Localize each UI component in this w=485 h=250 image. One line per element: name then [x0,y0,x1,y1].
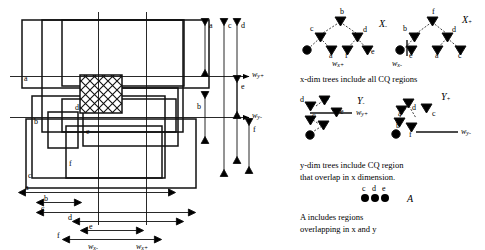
axis-label-wx-minus: wx- [88,243,98,250]
axis-label-wy-plus: wy+ [252,71,264,79]
axis-label-wy-minus: wy- [252,112,262,120]
tree-y-plus [392,99,458,138]
node-label-y-minus-e: e [340,108,344,116]
node-label-x-minus-b: b [340,8,344,16]
node-label-y-plus-b: b [396,122,400,130]
node-label-y-minus-d: d [300,96,304,104]
node-label-x-minus-e: e [371,48,375,56]
node-label-x-minus-d: d [363,26,367,34]
hinterval-label-a: a [25,184,29,192]
node-label-x-plus-c: c [458,52,462,60]
result-label-e: e [382,185,386,193]
vinterval-label-a: a [209,22,213,30]
hinterval-label-f: f [57,232,60,240]
node-label-y-minus-c: c [312,112,316,120]
query-region-cq [80,75,122,113]
tree-x-plus [396,17,466,56]
node-label-x-minus-f: f [345,52,348,60]
region-label-c: c [28,172,32,180]
tree-x-minus [303,17,373,55]
region-label-b: b [34,118,38,126]
tree-axis-x-minus: wx+ [332,60,344,68]
hinterval-label-c: c [41,205,45,213]
node-label-y-plus-f: f [409,131,412,139]
node-label-x-plus-d: d [452,26,456,34]
hinterval-label-b: b [44,195,48,203]
node-label-y-plus-d: d [412,104,416,112]
region-label-a: a [24,75,28,83]
caption-result-line1: A includes regions [300,212,363,223]
vinterval-label-c: c [228,22,232,30]
tree-title-x-plus: X+ [462,15,472,25]
node-label-y-plus-c: c [432,110,436,118]
result-set-dots [361,194,389,202]
node-label-x-plus-f: f [432,8,435,16]
tree-axis-x-plus: wx- [392,60,402,68]
hinterval-label-d: d [68,214,72,222]
node-label-y-minus-a: a [325,94,329,102]
node-label-x-minus-c: c [310,25,314,33]
node-label-x-plus-e: e [409,52,413,60]
vinterval-label-e: e [241,83,245,91]
vinterval-label-f: f [253,126,256,134]
axis-label-wx-plus: wx+ [136,243,148,250]
diagram-canvas [0,0,485,250]
region-rect-f [66,126,162,178]
tree-axis-y-minus: wy+ [356,109,368,117]
vinterval-label-b: b [197,103,201,111]
tree-title-y-plus: Y+ [441,92,451,102]
node-label-x-plus-b: b [403,25,407,33]
tree-title-x-minus: X- [379,19,387,29]
region-label-d: d [75,104,79,112]
node-label-x-plus-a: a [435,52,439,60]
node-label-y-plus-a: a [398,110,402,118]
region-label-f: f [69,160,72,168]
vinterval-label-d: d [241,22,245,30]
figure-root: a b c d e f a b c d e f a b c d e f wy+ … [0,0,485,250]
caption-y-dim-line1: y-dim trees include CQ region [300,160,403,171]
tree-title-y-minus: Y- [357,96,365,106]
result-set-label-a: A [407,194,413,204]
region-label-e: e [86,128,90,136]
result-label-c: c [362,185,366,193]
result-label-d: d [372,185,376,193]
caption-y-dim-line2: that overlap in x dimension. [300,172,395,183]
hinterval-label-e: e [89,223,93,231]
tree-axis-y-plus: wy- [461,128,471,136]
caption-result-line2: overlapping in x and y [300,224,376,235]
caption-x-dim: x-dim trees include all CQ regions [300,74,417,85]
